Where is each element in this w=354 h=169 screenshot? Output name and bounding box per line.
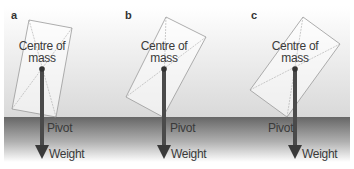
diagram-graphics [0,0,354,169]
centre-of-mass-label-c: Centre of mass [265,40,325,64]
pivot-label-a: Pivot [47,122,72,134]
panel-letter-b: b [125,9,132,21]
panel-letter-c: c [251,9,257,21]
centre-of-mass-label-b: Centre of mass [134,40,194,64]
pivot-label-c: Pivot [268,122,293,134]
balance-diagram: a Centre of mass Pivot Weight b Centre o… [0,0,354,169]
centre-label-line2: mass [12,52,72,64]
panel-letter-a: a [11,9,17,21]
weight-label-b: Weight [171,148,206,160]
pivot-label-b: Pivot [170,122,195,134]
centre-label-line2: mass [265,52,325,64]
centre-label-line2: mass [134,52,194,64]
centre-of-mass-label-a: Centre of mass [12,40,72,64]
weight-label-c: Weight [302,148,337,160]
weight-label-a: Weight [49,148,84,160]
